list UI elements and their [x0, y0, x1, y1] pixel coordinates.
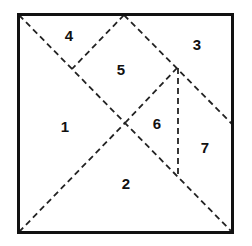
label-piece-6: 6	[153, 115, 161, 132]
label-piece-2: 2	[122, 175, 130, 192]
label-piece-3: 3	[193, 36, 201, 53]
label-piece-5: 5	[117, 61, 125, 78]
tangram-diagram: 4 3 5 1 6 7 2	[0, 0, 252, 246]
label-piece-7: 7	[201, 139, 209, 156]
diagonal-bottom-left-to-center	[19, 123, 125, 232]
label-piece-4: 4	[65, 27, 74, 44]
label-piece-1: 1	[61, 118, 69, 135]
line-center-to-apex	[125, 68, 177, 123]
